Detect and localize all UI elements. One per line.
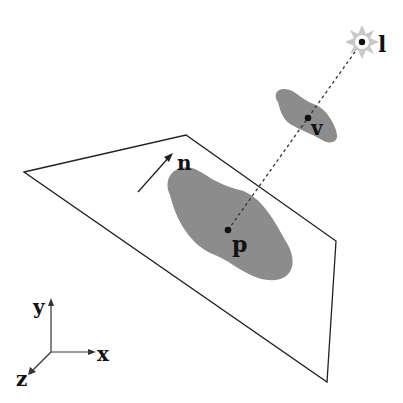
label-v: v <box>310 116 324 140</box>
label-p: p <box>232 231 247 257</box>
label-light: l <box>378 31 386 57</box>
point-p <box>225 227 232 234</box>
label-axis-y: y <box>32 295 46 319</box>
label-axis-x: x <box>97 342 110 366</box>
shadow-blob <box>168 167 293 280</box>
label-axis-z: z <box>16 367 27 391</box>
light-source-icon <box>345 25 379 59</box>
label-n: n <box>177 151 192 175</box>
diagram-canvas: l v p n y x z <box>0 0 403 403</box>
